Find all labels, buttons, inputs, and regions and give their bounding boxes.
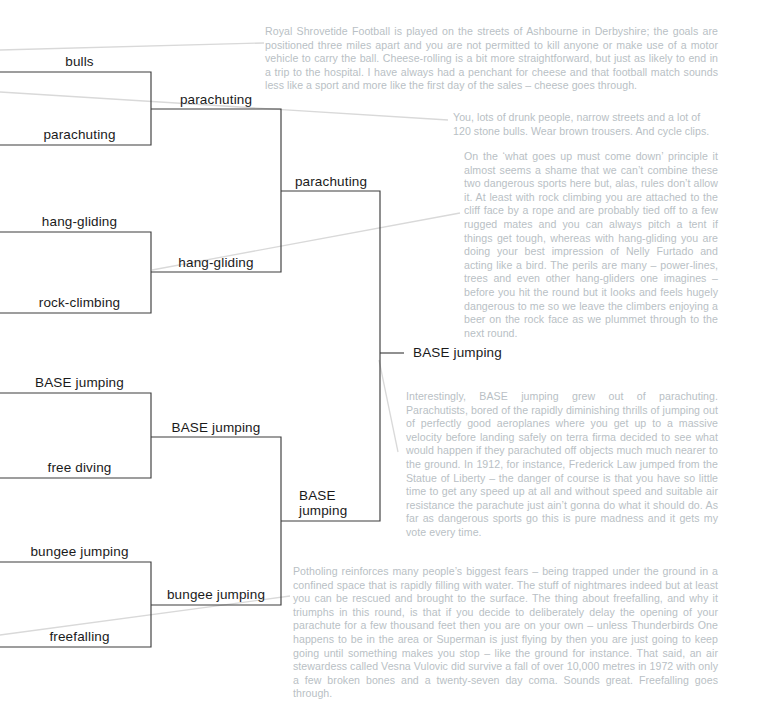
slot-r1-bungee-jumping[interactable]: bungee jumping bbox=[8, 544, 151, 559]
r3-bracket-1 bbox=[281, 191, 380, 521]
commentary-hang-gliding-vs-rock-climbing: On the ‘what goes up must come down’ pri… bbox=[464, 150, 718, 340]
slot-r2-hang-gliding[interactable]: hang-gliding bbox=[155, 255, 277, 270]
slot-r1-base-jumping[interactable]: BASE jumping bbox=[8, 375, 151, 390]
slot-winner-base-jumping[interactable]: BASE jumping bbox=[413, 345, 533, 360]
commentary-base-jumping: Interestingly, BASE jumping grew out of … bbox=[406, 390, 718, 540]
slot-r2-bungee-jumping[interactable]: bungee jumping bbox=[155, 587, 277, 602]
commentary-shrovetide-vs-cheese: Royal Shrovetide Football is played on t… bbox=[265, 25, 718, 93]
slot-r1-bulls[interactable]: bulls bbox=[8, 54, 151, 69]
r2-bracket-2 bbox=[151, 437, 281, 605]
slot-r1-parachuting[interactable]: parachuting bbox=[8, 127, 151, 142]
commentary-freefalling-vs-potholing: Potholing reinforces many people’s bigge… bbox=[293, 565, 718, 701]
slot-r1-free-diving[interactable]: free diving bbox=[8, 460, 151, 475]
slot-r3-parachuting[interactable]: parachuting bbox=[285, 174, 377, 189]
slot-r2-base-jumping[interactable]: BASE jumping bbox=[155, 420, 277, 435]
slot-r1-rock-climbing[interactable]: rock-climbing bbox=[8, 295, 151, 310]
slot-r1-freefalling[interactable]: freefalling bbox=[8, 629, 151, 644]
slot-r3-base-jumping[interactable]: BASE jumping bbox=[299, 488, 369, 518]
leader-line-shrovetide bbox=[0, 43, 264, 50]
r2-bracket-1 bbox=[151, 109, 281, 272]
round3-connectors bbox=[281, 191, 380, 521]
slot-r1-hang-gliding[interactable]: hang-gliding bbox=[8, 214, 151, 229]
leader-line-base-jumping bbox=[379, 360, 398, 452]
slot-r2-parachuting[interactable]: parachuting bbox=[155, 92, 277, 107]
commentary-bulls: You, lots of drunk people, narrow street… bbox=[453, 111, 718, 138]
tournament-bracket-diagram: bulls parachuting hang-gliding rock-clim… bbox=[0, 0, 758, 726]
round2-connectors bbox=[151, 109, 281, 605]
round1-connectors bbox=[0, 72, 151, 647]
